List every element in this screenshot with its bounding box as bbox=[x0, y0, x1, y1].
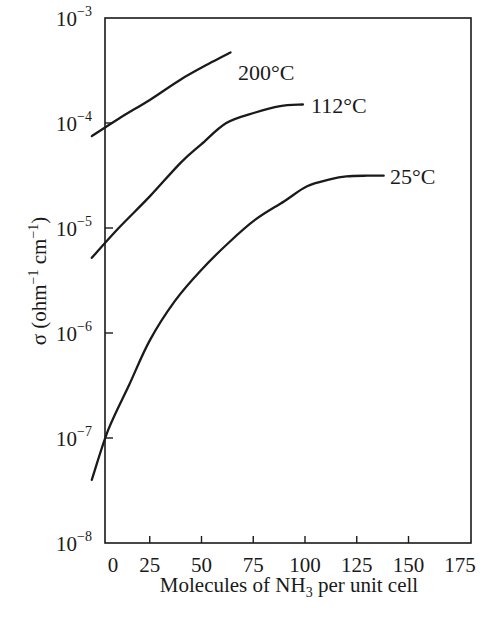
y-tick-label: 10−3 bbox=[56, 4, 92, 31]
series-label: 25°C bbox=[390, 164, 435, 189]
y-tick-label: 10−6 bbox=[56, 319, 92, 346]
y-tick-label: 10−4 bbox=[56, 109, 92, 136]
series-line-1 bbox=[92, 105, 303, 258]
x-tick-label: 175 bbox=[444, 553, 476, 577]
series-labels: 200°C112°C25°C bbox=[238, 60, 435, 189]
series-label: 200°C bbox=[238, 60, 294, 85]
y-tick-label: 10−5 bbox=[56, 214, 92, 241]
x-tick-label: 25 bbox=[139, 553, 160, 577]
x-axis-ticks: 0255075100125150175 bbox=[108, 536, 476, 577]
conductivity-chart: 0255075100125150175 10−810−710−610−510−4… bbox=[0, 0, 492, 618]
series-label: 112°C bbox=[311, 93, 367, 118]
series-line-2 bbox=[92, 176, 384, 480]
x-axis-title: Molecules of NH3 per unit cell bbox=[160, 573, 419, 600]
plot-frame bbox=[105, 18, 471, 543]
y-tick-label: 10−8 bbox=[56, 529, 92, 556]
y-tick-label: 10−7 bbox=[56, 424, 92, 451]
series-line-0 bbox=[92, 52, 231, 136]
y-axis-title: σ (ohm−1 cm−1) bbox=[26, 217, 51, 346]
x-tick-label: 0 bbox=[108, 553, 119, 577]
